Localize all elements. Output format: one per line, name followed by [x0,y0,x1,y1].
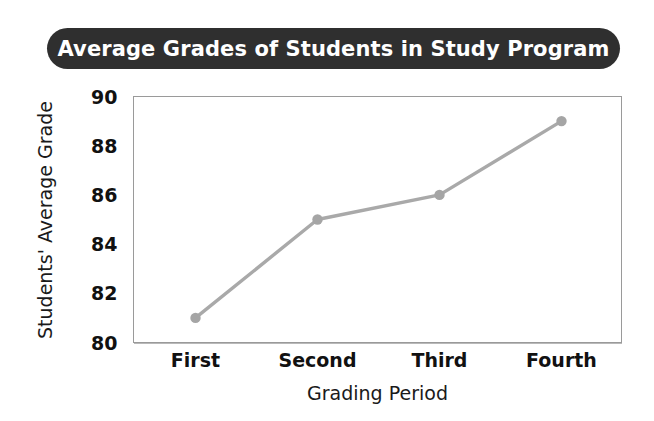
y-tick-label-84: 84 [91,233,117,255]
plot-area-border [134,97,622,343]
y-tick-label-86: 86 [91,184,117,206]
y-axis-tick-labels: 808284868890 [91,86,117,354]
x-tick-label-fourth: Fourth [526,349,597,371]
y-tick-label-90: 90 [91,86,117,108]
data-point-first [190,313,200,323]
y-tick-label-80: 80 [91,332,117,354]
line-chart-plot: 808284868890 FirstSecondThirdFourth [0,0,654,421]
chart-figure: Average Grades of Students in Study Prog… [0,0,654,421]
data-point-fourth [556,116,566,126]
x-axis-category-labels: FirstSecondThirdFourth [171,349,597,371]
data-point-second [312,214,322,224]
data-point-third [434,190,444,200]
y-tick-label-88: 88 [91,135,117,157]
x-axis-title: Grading Period [133,382,622,404]
y-tick-label-82: 82 [91,282,117,304]
x-tick-label-first: First [171,349,220,371]
x-tick-label-third: Third [412,349,468,371]
x-tick-label-second: Second [278,349,356,371]
